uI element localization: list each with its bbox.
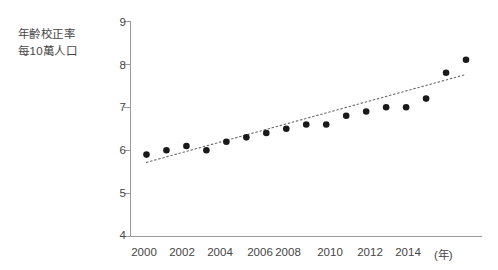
trend-line	[146, 74, 466, 162]
y-tick-label-4: 4	[110, 229, 126, 241]
data-points	[143, 56, 469, 157]
data-point	[183, 143, 190, 150]
data-point	[223, 138, 230, 145]
data-point	[403, 104, 410, 111]
data-point	[283, 125, 290, 132]
data-point	[463, 56, 470, 63]
data-point	[323, 121, 330, 128]
y-tick-label-9: 9	[110, 16, 126, 28]
data-point	[383, 104, 390, 111]
data-point	[423, 95, 430, 102]
x-tick-label-2000: 2000	[124, 246, 164, 258]
x-tick-label-2004: 2004	[200, 246, 240, 258]
data-point	[343, 113, 350, 120]
y-tick-label-5: 5	[110, 187, 126, 199]
x-tick-label-2008: 2008	[268, 246, 308, 258]
x-tick-label-2010: 2010	[310, 246, 350, 258]
chart-figure: 年齡校正率 每10萬人口 9 8 7 6 5 4 2000 2002 2004 …	[0, 0, 498, 270]
data-point	[303, 121, 310, 128]
y-tick-label-6: 6	[110, 144, 126, 156]
y-tick-label-7: 7	[110, 101, 126, 113]
y-axis-label-line-1: 年齡校正率	[18, 26, 114, 43]
y-axis	[124, 21, 131, 237]
x-tick-label-2012: 2012	[350, 246, 390, 258]
data-point	[263, 130, 270, 137]
trend-line-segment	[146, 74, 466, 162]
y-tick-label-8: 8	[110, 59, 126, 71]
x-axis-unit-label: (年)	[434, 246, 453, 262]
data-point	[163, 147, 170, 154]
data-point	[243, 134, 250, 141]
x-tick-label-2014: 2014	[388, 246, 428, 258]
data-point	[203, 147, 210, 154]
data-point	[143, 151, 150, 158]
data-point	[443, 69, 450, 76]
x-tick-label-2002: 2002	[162, 246, 202, 258]
y-axis-label-line-2: 每10萬人口	[18, 43, 114, 60]
data-point	[363, 108, 370, 115]
y-axis-label: 年齡校正率 每10萬人口	[18, 26, 114, 60]
